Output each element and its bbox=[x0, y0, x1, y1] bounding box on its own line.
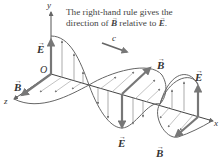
e-field-arrows-down bbox=[98, 88, 143, 124]
b-label-end: →B bbox=[156, 148, 163, 159]
b-vector-crest bbox=[122, 68, 150, 94]
y-axis-label: y bbox=[47, 1, 51, 10]
propagation-arrow bbox=[102, 43, 127, 52]
caption-e-symbol: →E bbox=[159, 18, 165, 28]
speed-label: c bbox=[112, 34, 116, 43]
b-vector-origin bbox=[22, 74, 51, 95]
e-label-end: →E bbox=[195, 72, 202, 83]
e-label-trough: →E bbox=[118, 138, 125, 149]
origin-label: O bbox=[40, 65, 47, 75]
caption-line-1: The right-hand rule gives the bbox=[66, 7, 173, 18]
b-label-crest: →B bbox=[157, 60, 164, 71]
x-axis bbox=[51, 74, 213, 121]
caption-line-2: direction of →B relative to →E. bbox=[66, 18, 173, 29]
caption: The right-hand rule gives the direction … bbox=[66, 7, 173, 29]
caption-b-symbol: →B bbox=[111, 18, 117, 28]
b-field-arrows bbox=[40, 72, 194, 130]
z-axis-label: z bbox=[4, 97, 8, 106]
x-axis-label: x bbox=[214, 119, 218, 128]
b-label-origin: →B bbox=[14, 82, 21, 93]
e-field-arrows-up-2 bbox=[172, 82, 184, 111]
e-label-origin: →E bbox=[37, 44, 44, 55]
